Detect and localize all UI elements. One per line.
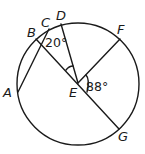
label-b: B <box>27 25 36 40</box>
label-g: G <box>118 129 128 144</box>
angle-arc-bed <box>66 66 73 70</box>
segment-ed <box>61 24 78 83</box>
angle-label-88: 88° <box>86 79 108 94</box>
label-e: E <box>69 85 78 100</box>
label-c: C <box>41 15 51 30</box>
label-d: D <box>56 8 66 23</box>
circle-diagram: A B C D E F G 20° 88° <box>0 0 145 154</box>
angle-label-20: 20° <box>45 35 67 50</box>
label-f: F <box>117 22 125 37</box>
label-a: A <box>2 85 12 100</box>
segment-ef <box>78 39 120 83</box>
